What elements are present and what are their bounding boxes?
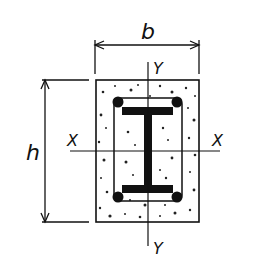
height-label: h xyxy=(26,140,40,165)
y-axis-label-top: Y xyxy=(153,59,164,78)
width-label: b xyxy=(141,19,155,44)
rebar-top-right xyxy=(172,97,183,108)
rebar-top-left xyxy=(113,97,124,108)
rebar-bottom-left xyxy=(113,192,124,203)
x-axis-label-left: X xyxy=(66,131,79,150)
diagram-svg: b h xyxy=(0,0,253,257)
rebar-bottom-right xyxy=(172,192,183,203)
x-axis-label-right: X xyxy=(211,131,224,150)
y-axis-label-bottom: Y xyxy=(153,239,164,257)
cross-section-diagram: b h xyxy=(0,0,253,257)
width-dimension xyxy=(95,40,199,74)
